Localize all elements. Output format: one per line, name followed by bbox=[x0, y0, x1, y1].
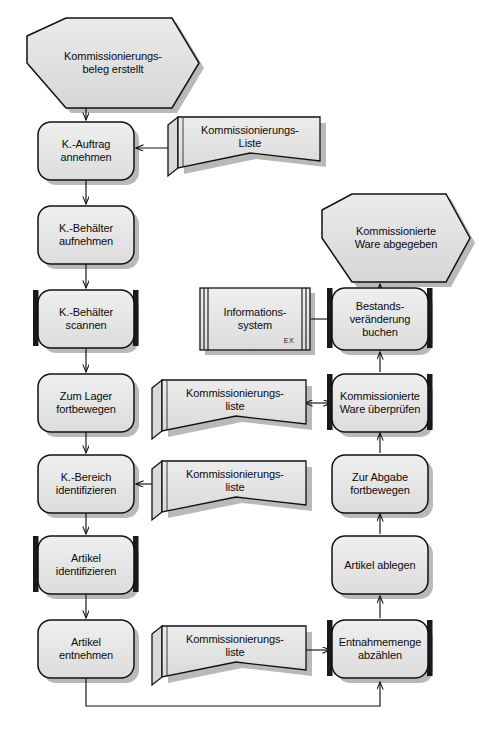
system-informationssystem[interactable] bbox=[200, 288, 310, 350]
flowchart-svg bbox=[0, 0, 479, 738]
process-bereich-identifizieren[interactable] bbox=[38, 455, 134, 513]
flowchart-canvas: Kommissionierungs- beleg erstellt K.-Auf… bbox=[0, 0, 479, 738]
process-artikel-identifizieren[interactable] bbox=[33, 536, 139, 594]
process-ware-ueberpruefen[interactable] bbox=[327, 374, 433, 432]
process-behaelter-scannen[interactable] bbox=[33, 290, 139, 348]
process-entnahmemenge-abzaehlen[interactable] bbox=[327, 620, 433, 678]
event-end-shape[interactable] bbox=[322, 194, 470, 282]
process-zur-abgabe-fortbewegen[interactable] bbox=[332, 455, 428, 513]
process-zum-lager-fortbewegen[interactable] bbox=[38, 374, 134, 432]
process-behaelter-aufnehmen[interactable] bbox=[38, 206, 134, 264]
process-artikel-ablegen[interactable] bbox=[332, 536, 428, 594]
event-start-shape[interactable] bbox=[27, 18, 199, 108]
process-auftrag-annehmen[interactable] bbox=[38, 122, 134, 180]
process-bestandsveraenderung-buchen[interactable] bbox=[327, 288, 433, 350]
process-artikel-entnehmen[interactable] bbox=[38, 620, 134, 678]
